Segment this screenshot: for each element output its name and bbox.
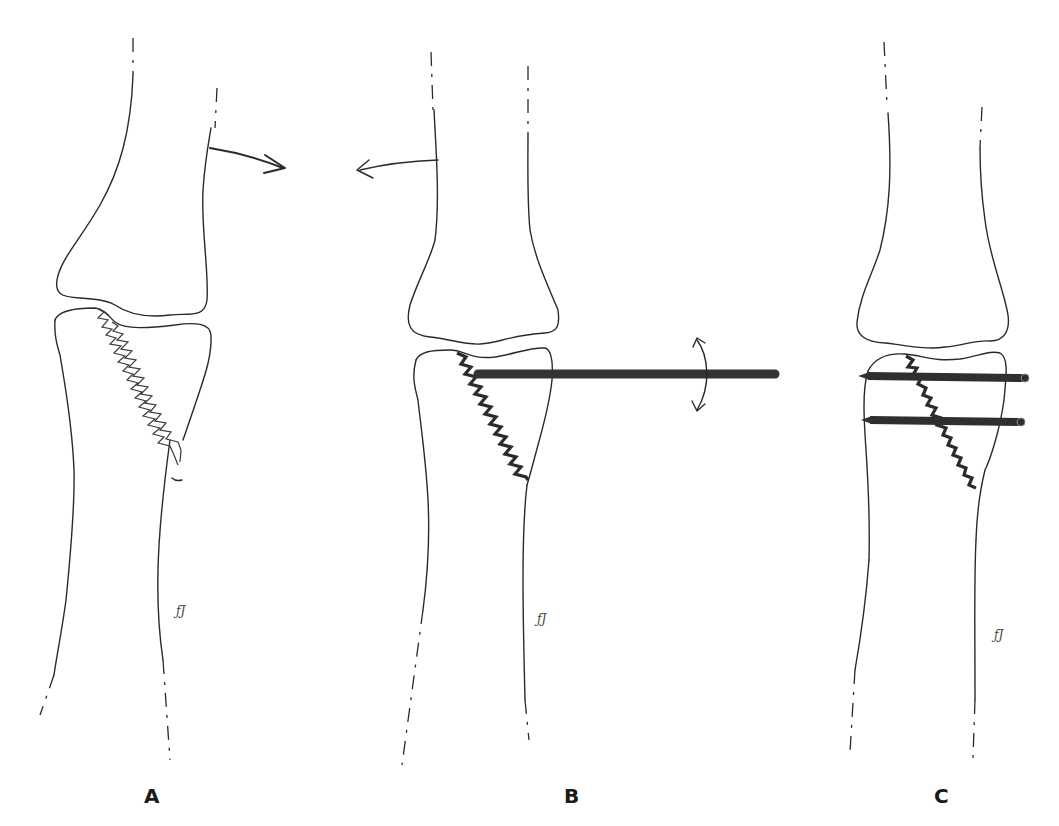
panel-label-c: C	[934, 784, 949, 808]
panel-label-b: B	[564, 784, 579, 808]
panel-label-a: A	[144, 784, 159, 808]
artist-signature-c: ƒJ	[994, 628, 1003, 642]
artist-signature-a: ƒJ	[176, 604, 185, 618]
panel-a-drawing	[40, 38, 285, 760]
panel-b-drawing	[357, 52, 775, 765]
artist-signature-b: ƒJ	[537, 612, 546, 626]
fracture-fixation-figure	[0, 0, 1059, 826]
panel-c-drawing	[850, 42, 1029, 758]
